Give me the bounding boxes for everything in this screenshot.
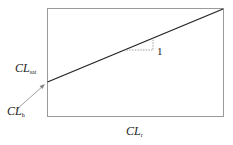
x-axis-label: CLr	[126, 124, 143, 139]
intercept-label: CLh	[7, 104, 25, 119]
plot-frame	[48, 9, 224, 117]
regression-line	[48, 9, 224, 82]
slope-label: 1	[157, 45, 163, 57]
y-level-label: CLsat	[15, 61, 36, 76]
